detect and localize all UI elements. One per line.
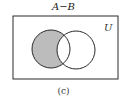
- universe-label: U: [104, 22, 113, 33]
- diagram-caption: (c): [0, 86, 127, 96]
